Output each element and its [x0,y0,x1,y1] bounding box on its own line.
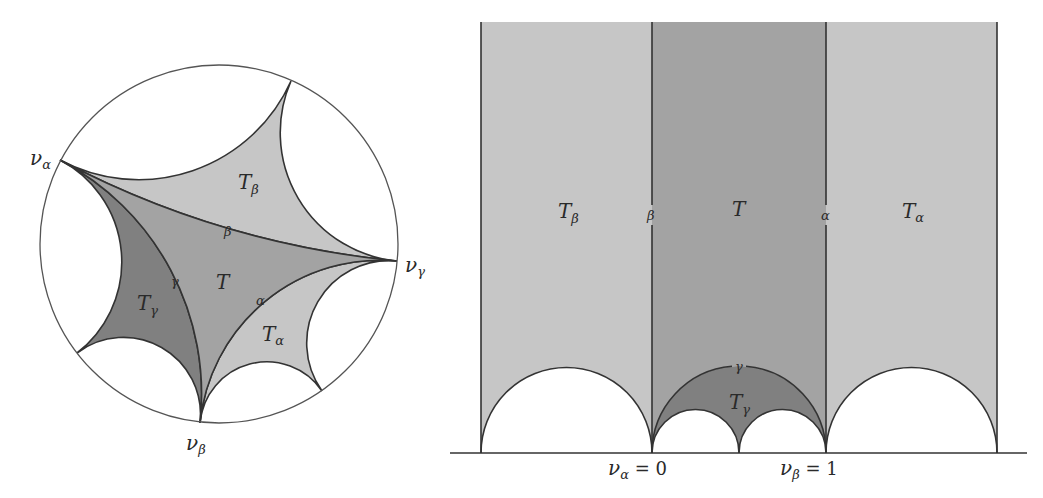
label-v-beta-one: νβ = 1 [780,456,838,482]
label-edge-alpha-halfplane: α [821,208,830,223]
figure: να νγ νβ Tβ T Tγ Tα β γ α [0,0,1043,498]
upper-half-plane: Tβ T Tα Tγ β α γ να = 0 νβ = 1 [450,22,1027,482]
poincare-disk: να νγ νβ Tβ T Tγ Tα β γ α [30,65,425,457]
label-v-beta-disk: νβ [186,431,206,457]
label-edge-gamma-halfplane: γ [735,359,743,374]
label-edge-gamma-disk: γ [171,274,179,289]
label-t-halfplane: T [732,197,747,221]
label-edge-beta-halfplane: β [646,208,655,223]
region-t-alpha-halfplane [826,22,997,453]
label-v-alpha-disk: να [30,146,51,172]
region-t-beta-halfplane [481,22,652,453]
label-v-gamma-disk: νγ [405,253,425,279]
label-edge-beta-disk: β [223,224,232,239]
label-t-disk: T [216,270,231,294]
label-v-alpha-zero: να = 0 [608,456,667,482]
label-edge-alpha-disk: α [256,293,265,308]
